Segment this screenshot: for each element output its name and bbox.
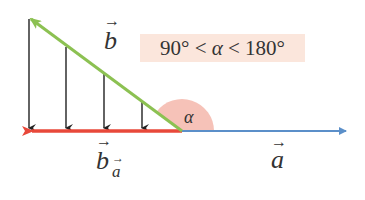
vector-a-label: → a xyxy=(271,145,284,175)
angle-condition: 90° < α < 180° xyxy=(140,34,305,62)
drop-lines xyxy=(29,19,142,128)
angle-label: α xyxy=(184,107,193,128)
projection-label: → b → a xyxy=(96,146,109,176)
vector-b-label: → b xyxy=(104,26,117,56)
projection-diagram xyxy=(0,0,365,200)
